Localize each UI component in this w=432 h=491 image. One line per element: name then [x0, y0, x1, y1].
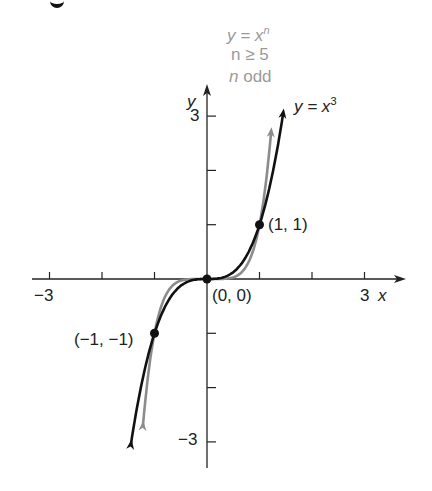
- gray-eq-text: y = x: [227, 26, 263, 45]
- point-label-neg1-neg1: (−1, −1): [74, 330, 134, 350]
- gray-curve-label-odd: n odd: [229, 67, 272, 87]
- point-label-origin: (0, 0): [212, 286, 252, 306]
- tick-label-x-max: 3: [360, 286, 369, 306]
- black-eq-exponent: 3: [330, 95, 336, 107]
- tick-label-y-min: −3: [178, 430, 197, 450]
- gray-curve-label-eq: y = xn: [227, 24, 270, 46]
- gray-odd-text: odd: [238, 67, 271, 86]
- gray-curve-label-cond: n ≥ 5: [231, 45, 269, 65]
- x-axis-label: x: [378, 286, 387, 306]
- black-eq-text: y = x: [294, 97, 330, 116]
- point-label-1-1: (1, 1): [268, 215, 308, 235]
- tick-label-x-min: −3: [34, 286, 53, 306]
- gray-eq-exponent: n: [263, 24, 269, 36]
- plot-area: [0, 0, 432, 491]
- black-curve-label: y = x3: [294, 95, 337, 117]
- tick-label-y-max: 3: [190, 106, 199, 126]
